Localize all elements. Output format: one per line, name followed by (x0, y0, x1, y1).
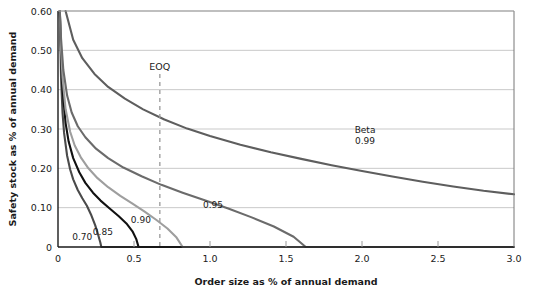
x-tick-label-5: 2.5 (430, 253, 445, 264)
y-tick-label-1: 0.10 (31, 202, 52, 213)
x-tick-label-4: 2.0 (354, 253, 369, 264)
chart-background (0, 0, 533, 293)
eoq-label: EOQ (149, 61, 170, 72)
x-tick-label-6: 3.0 (506, 253, 521, 264)
y-tick-label-5: 0.50 (31, 45, 52, 56)
x-axis-title: Order size as % of annual demand (194, 276, 377, 287)
series-label-0.70: 0.70 (72, 232, 92, 242)
series-label-0.99: 0.99 (355, 136, 375, 146)
x-tick-label-0: 0 (55, 253, 61, 264)
chart-container: EOQ 00.51.01.52.02.53.0 00.100.200.300.4… (0, 0, 533, 293)
series-label-0.85: 0.85 (93, 227, 113, 237)
series-label-0.95: 0.95 (203, 200, 223, 210)
x-tick-label-1: 0.5 (126, 253, 141, 264)
x-tick-label-3: 1.5 (278, 253, 293, 264)
y-tick-label-4: 0.40 (31, 84, 52, 95)
y-tick-label-3: 0.30 (31, 124, 52, 135)
series-label-0.90: 0.90 (131, 215, 151, 225)
y-tick-label-2: 0.20 (31, 163, 52, 174)
y-tick-label-0: 0 (46, 242, 52, 253)
y-axis-title: Safety stock as % of annual demand (7, 32, 18, 227)
x-tick-label-2: 1.0 (202, 253, 217, 264)
safety-stock-vs-order-size-chart: EOQ 00.51.01.52.02.53.0 00.100.200.300.4… (0, 0, 533, 293)
legend-title-beta: Beta (355, 125, 376, 135)
y-tick-label-6: 0.60 (31, 6, 52, 17)
